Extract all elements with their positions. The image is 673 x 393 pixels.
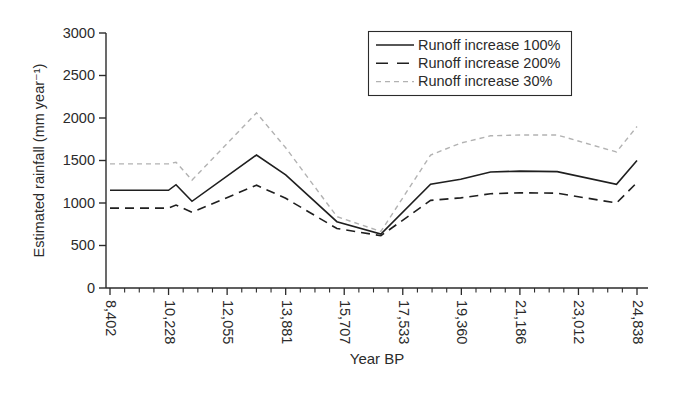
x-tick-label: 23,012 [571, 300, 587, 344]
y-tick-label: 1500 [63, 152, 95, 168]
y-tick-label: 2000 [63, 110, 95, 126]
y-tick-label: 1000 [63, 195, 95, 211]
legend-label: Runoff increase 30% [418, 73, 552, 89]
y-tick-label: 2500 [63, 67, 95, 83]
legend-label: Runoff increase 100% [418, 37, 561, 53]
legend-label: Runoff increase 200% [418, 55, 561, 71]
series-line-2 [110, 183, 637, 236]
x-tick-label: 12,055 [220, 300, 236, 344]
x-axis-title: Year BP [350, 350, 405, 367]
y-tick-label: 3000 [63, 25, 95, 41]
x-tick-label: 8,402 [103, 300, 119, 336]
chart-canvas: 050010001500200025003000Estimated rainfa… [0, 0, 673, 393]
y-axis-title: Estimated rainfall (mm year⁻¹) [31, 64, 47, 258]
x-tick-label: 24,838 [630, 300, 646, 344]
y-tick-label: 500 [71, 237, 95, 253]
rainfall-runoff-chart: 050010001500200025003000Estimated rainfa… [0, 0, 673, 393]
y-tick-label: 0 [87, 280, 95, 296]
x-tick-label: 13,881 [279, 300, 295, 344]
x-tick-label: 17,533 [396, 300, 412, 344]
series-line-1 [110, 155, 637, 234]
x-tick-label: 21,186 [513, 300, 529, 344]
x-tick-label: 10,228 [162, 300, 178, 344]
x-tick-label: 19,360 [454, 300, 470, 344]
x-tick-label: 15,707 [337, 300, 353, 344]
legend: Runoff increase 100%Runoff increase 200%… [369, 32, 572, 96]
x-axis: 8,40210,22812,05513,88115,70717,53319,36… [103, 288, 648, 367]
y-axis: 050010001500200025003000Estimated rainfa… [31, 25, 106, 296]
